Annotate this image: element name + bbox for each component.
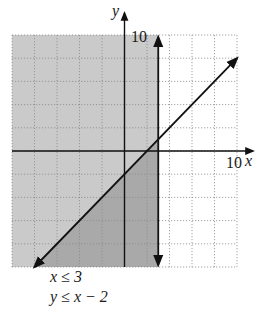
inequality-y-le-x-minus-2: y ≤ x − 2 bbox=[50, 288, 108, 306]
x-tick-10: 10 bbox=[226, 154, 242, 171]
y-axis-label: y bbox=[110, 2, 120, 20]
y-tick-10: 10 bbox=[131, 28, 147, 45]
inequality-graph: y 10 10 x bbox=[0, 0, 264, 324]
x-axis-label: x bbox=[244, 152, 252, 169]
inequality-x-le-3: x ≤ 3 bbox=[50, 268, 82, 286]
